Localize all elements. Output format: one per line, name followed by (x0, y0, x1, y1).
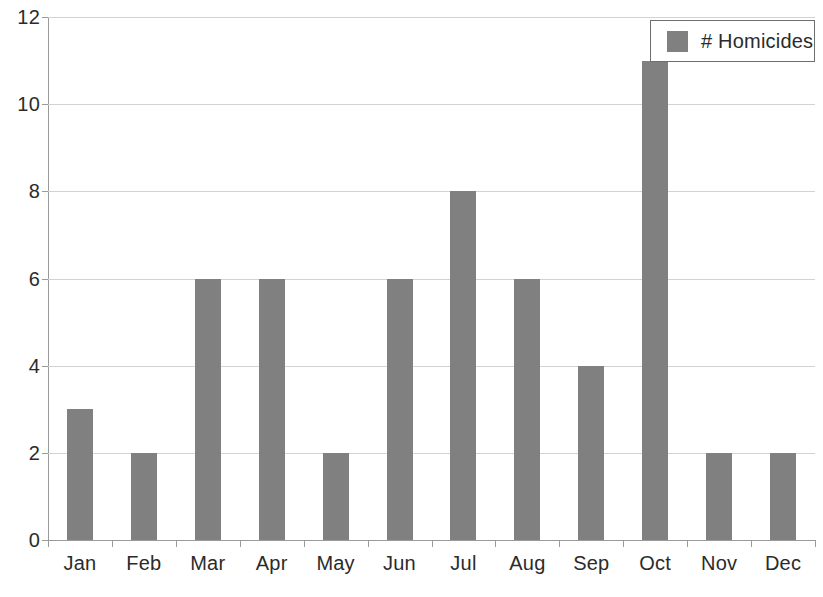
bar-slot (623, 17, 687, 540)
bar-slot (112, 17, 176, 540)
bar-slot (368, 17, 432, 540)
x-tick-mark (495, 540, 496, 547)
bar-slot (687, 17, 751, 540)
bar-aug[interactable] (514, 279, 540, 541)
x-tick-mark (48, 540, 49, 547)
bar-mar[interactable] (195, 279, 221, 541)
y-tick-mark-2 (42, 453, 48, 454)
bar-slot (48, 17, 112, 540)
y-tick-mark-4 (42, 366, 48, 367)
bar-jul[interactable] (450, 191, 476, 540)
y-tick-label-10: 10 (0, 93, 40, 116)
bar-jan[interactable] (67, 409, 93, 540)
y-tick-label-0: 0 (0, 529, 40, 552)
y-tick-mark-12 (42, 17, 48, 18)
y-tick-mark-0 (42, 540, 48, 541)
bar-nov[interactable] (706, 453, 732, 540)
bar-slot (432, 17, 496, 540)
y-tick-label-12: 12 (0, 6, 40, 29)
bar-dec[interactable] (770, 453, 796, 540)
y-tick-label-6: 6 (0, 267, 40, 290)
bar-slot (559, 17, 623, 540)
plot-area (48, 17, 815, 540)
legend: # Homicides (650, 20, 815, 62)
x-tick-mark (368, 540, 369, 547)
bar-sep[interactable] (578, 366, 604, 540)
x-tick-mark (112, 540, 113, 547)
y-tick-label-8: 8 (0, 180, 40, 203)
x-tick-mark (240, 540, 241, 547)
x-tick-mark (623, 540, 624, 547)
y-tick-label-4: 4 (0, 354, 40, 377)
bar-apr[interactable] (259, 279, 285, 541)
x-tick-mark (687, 540, 688, 547)
y-tick-mark-6 (42, 279, 48, 280)
bar-chart: 024681012 JanFebMarAprMayJunJulAugSepOct… (0, 0, 823, 597)
x-tick-mark (432, 540, 433, 547)
bar-may[interactable] (323, 453, 349, 540)
legend-label-homicides: # Homicides (701, 30, 813, 53)
x-tick-mark (176, 540, 177, 547)
bar-slot (751, 17, 815, 540)
bar-slot (176, 17, 240, 540)
y-tick-mark-8 (42, 191, 48, 192)
x-tick-mark (559, 540, 560, 547)
x-tick-mark (304, 540, 305, 547)
y-tick-mark-10 (42, 104, 48, 105)
bar-oct[interactable] (642, 61, 668, 540)
y-tick-label-2: 2 (0, 441, 40, 464)
x-tick-mark (815, 540, 816, 547)
bar-slot (304, 17, 368, 540)
x-tick-label-dec: Dec (743, 552, 823, 575)
bar-slot (495, 17, 559, 540)
x-tick-mark (751, 540, 752, 547)
bar-jun[interactable] (387, 279, 413, 541)
bar-feb[interactable] (131, 453, 157, 540)
y-axis: 024681012 (0, 0, 40, 597)
bar-slot (240, 17, 304, 540)
legend-swatch-homicides (667, 31, 688, 52)
